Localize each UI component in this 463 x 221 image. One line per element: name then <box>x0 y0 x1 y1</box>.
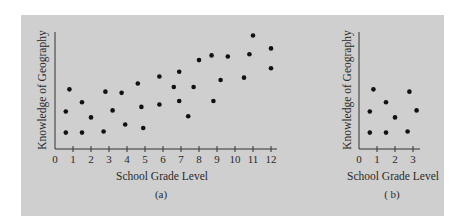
data-point <box>269 66 274 71</box>
scatter-figure: 0123456789101112 Knowledge of Geography … <box>0 0 463 221</box>
x-tick-label: 0 <box>52 153 58 165</box>
data-point <box>101 129 106 134</box>
x-tick-label: 9 <box>214 153 220 165</box>
x-tick-label: 7 <box>178 153 184 165</box>
data-point <box>67 87 72 92</box>
y-axis-label: Knowledge of Geography <box>341 30 354 150</box>
data-point <box>80 100 85 105</box>
panel-label-b: ( b) <box>384 188 400 201</box>
data-point <box>157 102 162 107</box>
x-tick-label: 3 <box>410 153 416 165</box>
x-tick-label: 5 <box>142 153 148 165</box>
data-point <box>209 53 214 58</box>
x-tick-labels: 0123456789101112 <box>52 153 276 165</box>
data-point <box>177 99 182 104</box>
data-point <box>269 46 274 51</box>
panel-label-a: (a) <box>155 188 168 201</box>
x-axis-label: School Grade Level <box>116 170 208 182</box>
data-point <box>157 74 162 79</box>
data-point <box>177 69 182 74</box>
data-point <box>89 115 94 120</box>
data-point <box>80 130 85 135</box>
x-tick-label: 4 <box>124 153 130 165</box>
data-point <box>393 115 398 120</box>
x-tick-label: 3 <box>106 153 112 165</box>
data-point <box>414 108 419 113</box>
data-point <box>384 100 389 105</box>
data-point <box>242 75 247 80</box>
data-point <box>407 89 412 94</box>
data-point <box>368 130 373 135</box>
data-point <box>186 114 191 119</box>
x-axis-label: School Grade Level <box>347 170 439 182</box>
data-point <box>211 99 216 104</box>
x-tick-label: 1 <box>70 153 76 165</box>
chart-b: 0123 Knowledge of Geography School Grade… <box>341 30 439 201</box>
data-point <box>368 109 373 114</box>
data-point <box>251 33 256 38</box>
data-point <box>197 58 202 63</box>
data-point <box>172 85 177 90</box>
data-point <box>110 108 115 113</box>
data-point <box>123 122 128 127</box>
data-point <box>191 85 196 90</box>
data-points <box>368 87 419 135</box>
data-point <box>119 91 124 96</box>
data-points <box>64 33 274 135</box>
data-point <box>136 81 141 86</box>
x-tick-label: 12 <box>266 153 277 165</box>
data-point <box>64 109 69 114</box>
x-tick-label: 1 <box>374 153 380 165</box>
data-point <box>141 126 146 131</box>
x-tick-label: 11 <box>248 153 259 165</box>
data-point <box>64 130 69 135</box>
x-tick-label: 2 <box>88 153 94 165</box>
x-tick-label: 6 <box>160 153 166 165</box>
x-tick-label: 2 <box>392 153 398 165</box>
y-axis-label: Knowledge of Geography <box>36 30 49 150</box>
data-point <box>247 52 252 57</box>
data-point <box>103 89 108 94</box>
chart-a: 0123456789101112 Knowledge of Geography … <box>36 30 277 201</box>
x-tick-label: 10 <box>230 153 242 165</box>
data-point <box>405 129 410 134</box>
data-point <box>226 54 231 59</box>
data-point <box>384 130 389 135</box>
x-tick-label: 8 <box>196 153 202 165</box>
x-tick-label: 0 <box>356 153 362 165</box>
data-point <box>371 87 376 92</box>
data-point <box>139 105 144 110</box>
x-tick-labels: 0123 <box>356 153 416 165</box>
data-point <box>218 78 223 83</box>
